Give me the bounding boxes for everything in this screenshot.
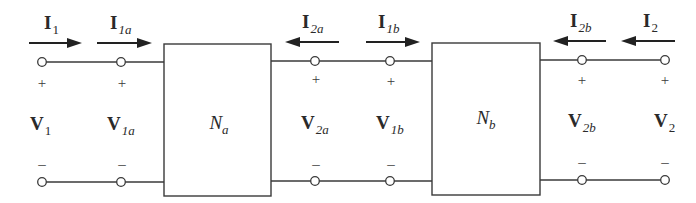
- voltage-label-v1b: V1b: [376, 113, 404, 136]
- minus-sign-v2a: –: [312, 157, 320, 172]
- minus-sign-v1b: –: [387, 157, 395, 172]
- plus-sign-v2a: +: [312, 72, 320, 87]
- minus-sign-v1: –: [38, 157, 46, 172]
- current-label-i2: I2: [643, 11, 658, 34]
- terminal-v2a-top: [311, 57, 320, 66]
- arrow-right-icon-i1a: [97, 38, 152, 48]
- voltage-label-v1: V1: [30, 114, 51, 137]
- network-label-na: Na: [209, 113, 228, 136]
- arrow-right-icon-i1b: [366, 37, 420, 47]
- terminal-v1b-bottom: [386, 177, 395, 186]
- arrow-left-icon-i2: [621, 36, 675, 46]
- voltage-label-v2: V2: [654, 111, 675, 134]
- terminal-v2a-bottom: [311, 177, 320, 186]
- plus-sign-v1b: +: [387, 74, 395, 89]
- circuit-diagram: [0, 0, 696, 203]
- terminal-v1b-top: [386, 57, 395, 66]
- network-label-nb: Nb: [476, 108, 495, 131]
- current-label-i2b: I2b: [570, 11, 591, 34]
- terminal-v1-bottom: [38, 178, 47, 187]
- terminal-v2b-top: [578, 56, 587, 65]
- current-label-i1a: I1a: [110, 13, 131, 36]
- minus-sign-v2: –: [661, 155, 669, 170]
- terminal-v2b-bottom: [578, 176, 587, 185]
- current-label-i1: I1: [44, 13, 59, 36]
- terminal-v1a-top: [117, 58, 126, 67]
- voltage-label-v2b: V2b: [568, 111, 596, 134]
- voltage-label-v2a: V2a: [301, 113, 329, 136]
- arrow-right-icon-i1: [29, 38, 82, 48]
- current-label-i2a: I2a: [302, 12, 323, 35]
- arrow-left-icon-i2b: [553, 36, 606, 46]
- plus-sign-v2b: +: [578, 73, 586, 88]
- current-label-i1b: I1b: [378, 12, 399, 35]
- plus-sign-v1a: +: [118, 76, 126, 91]
- minus-sign-v1a: –: [118, 157, 126, 172]
- terminal-v1-top: [38, 58, 47, 67]
- terminal-v2-top: [661, 56, 670, 65]
- minus-sign-v2b: –: [578, 155, 586, 170]
- voltage-label-v1a: V1a: [107, 114, 135, 137]
- plus-sign-v1: +: [38, 76, 46, 91]
- terminal-v2-bottom: [661, 176, 670, 185]
- terminal-v1a-bottom: [117, 178, 126, 187]
- plus-sign-v2: +: [661, 73, 669, 88]
- arrow-left-icon-i2a: [285, 37, 339, 47]
